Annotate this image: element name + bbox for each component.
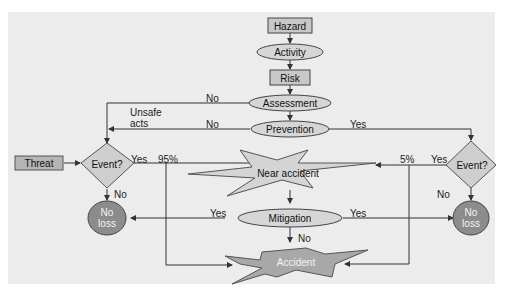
risk-label: Risk <box>280 73 299 84</box>
unsafe-acts-label: Unsafe acts <box>130 107 164 129</box>
accident-label: Accident <box>277 257 315 268</box>
mitigation-no-label: No <box>298 233 311 244</box>
mitigation-yes-left-label: Yes <box>210 208 226 219</box>
prevention-no-label: No <box>206 119 219 130</box>
event-left-no-label: No <box>114 189 127 200</box>
mitigation-yes-right-label: Yes <box>350 208 366 219</box>
event-right-yes-label: Yes <box>431 154 447 165</box>
no-loss-left-label: No loss <box>93 207 121 229</box>
pct-5-label: 5% <box>400 154 414 165</box>
no-loss-right-label: No loss <box>457 207 485 229</box>
event-left-yes-label: Yes <box>131 154 147 165</box>
event-right-no-label: No <box>437 189 450 200</box>
activity-label: Activity <box>274 47 306 58</box>
assessment-label: Assessment <box>263 98 317 109</box>
hazard-label: Hazard <box>274 21 306 32</box>
pct-95-label: 95% <box>158 154 178 165</box>
event-left-label: Event? <box>91 159 122 170</box>
assessment-no-label: No <box>206 93 219 104</box>
prevention-yes-label: Yes <box>350 119 366 130</box>
prevention-label: Prevention <box>266 124 314 135</box>
near-accident-label: Near accident <box>257 168 319 179</box>
mitigation-label: Mitigation <box>269 213 312 224</box>
event-right-label: Event? <box>456 160 487 171</box>
threat-label: Threat <box>25 158 54 169</box>
flowchart-canvas <box>0 0 510 296</box>
